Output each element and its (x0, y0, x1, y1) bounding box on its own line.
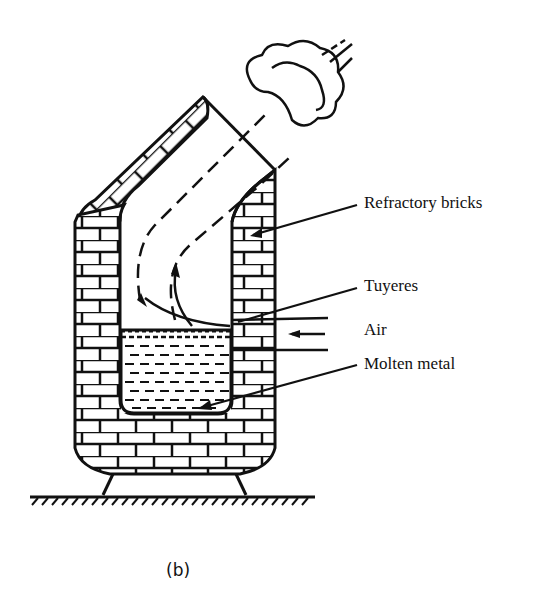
figure-caption: (b) (166, 560, 190, 580)
base-supports (30, 474, 315, 505)
smoke-cloud (247, 40, 352, 126)
label-refractory-bricks: Refractory bricks (364, 193, 482, 213)
label-tuyeres: Tuyeres (364, 276, 418, 296)
label-molten-metal: Molten metal (364, 354, 455, 374)
converter-diagram (0, 0, 558, 613)
molten-metal-bath (121, 330, 231, 413)
label-air: Air (364, 320, 387, 340)
